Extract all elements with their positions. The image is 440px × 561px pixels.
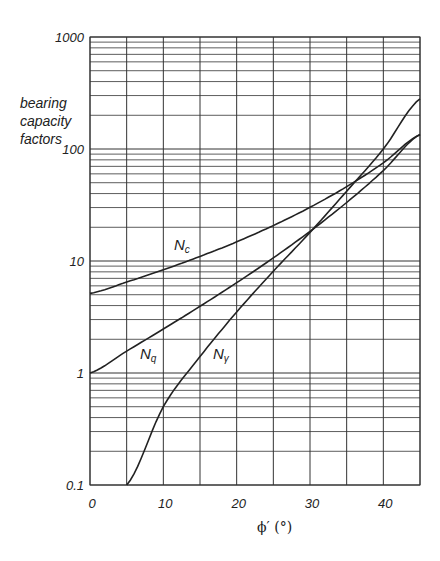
y-tick-label: 0.1 <box>66 478 84 493</box>
y-tick-label: 100 <box>62 142 84 157</box>
y-tick-label: 1000 <box>55 30 85 45</box>
x-tick-label: 10 <box>158 496 173 511</box>
x-axis-title: ϕ′ (°) <box>257 519 292 535</box>
x-tick-label: 0 <box>88 496 96 511</box>
curve-nq <box>90 134 420 373</box>
x-tick-label: 40 <box>378 496 393 511</box>
grid <box>90 37 420 485</box>
label-nc: Nc <box>174 236 190 255</box>
y-axis-title-line1: bearing <box>20 95 67 111</box>
tick-labels: 0.11101001000010203040 <box>55 30 393 511</box>
y-axis-title-line3: factors <box>20 131 62 147</box>
curves <box>90 99 420 485</box>
label-nq: Nq <box>140 345 157 364</box>
y-tick-label: 1 <box>77 366 84 381</box>
y-tick-label: 10 <box>70 254 85 269</box>
y-axis-title-line2: capacity <box>20 113 72 129</box>
bearing-capacity-chart: 0.11101001000010203040 bearing capacity … <box>0 0 440 561</box>
label-ngamma: Nγ <box>213 345 230 364</box>
x-tick-label: 20 <box>230 496 246 511</box>
x-tick-label: 30 <box>305 496 320 511</box>
